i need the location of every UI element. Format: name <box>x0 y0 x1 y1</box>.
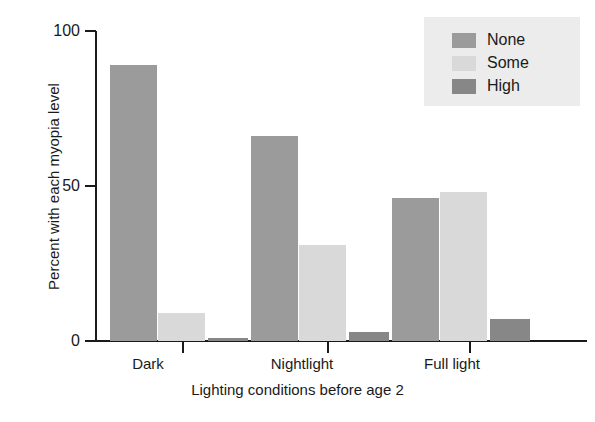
chart-legend: NoneSomeHigh <box>424 17 580 106</box>
y-tick-label: 100 <box>53 22 80 40</box>
legend-swatch-icon <box>452 79 476 94</box>
y-tick-mark <box>85 185 96 187</box>
y-tick-label: 50 <box>62 177 80 195</box>
x-tick-label-dark: Dark <box>132 355 164 372</box>
legend-swatch-icon <box>452 56 476 71</box>
bar-nightlight-high <box>349 332 389 341</box>
legend-label: Some <box>487 55 529 71</box>
bar-full-light-some <box>440 192 487 341</box>
y-tick-label: 0 <box>71 332 80 350</box>
bar-dark-none <box>110 65 157 341</box>
y-axis-title: Percent with each myopia level <box>45 42 62 332</box>
x-tick-mark <box>182 342 184 353</box>
bar-dark-some <box>158 313 205 341</box>
x-tick-mark <box>327 342 329 353</box>
y-tick-mark <box>85 340 96 342</box>
bar-chart: Percent with each myopia level 050100 Da… <box>0 0 595 422</box>
bar-full-light-high <box>490 319 530 341</box>
legend-label: None <box>487 32 525 48</box>
bar-dark-high <box>208 338 248 341</box>
x-tick-label-nightlight: Nightlight <box>271 355 334 372</box>
bar-nightlight-none <box>251 136 298 341</box>
legend-item-high[interactable]: High <box>452 75 520 97</box>
y-tick-mark <box>85 30 96 32</box>
legend-label: High <box>487 78 520 94</box>
legend-item-some[interactable]: Some <box>452 52 529 74</box>
legend-item-none[interactable]: None <box>452 29 525 51</box>
x-axis-title: Lighting conditions before age 2 <box>0 381 595 398</box>
x-tick-mark <box>469 342 471 353</box>
legend-swatch-icon <box>452 33 476 48</box>
bar-full-light-none <box>392 198 439 341</box>
bar-nightlight-some <box>299 245 346 341</box>
x-tick-label-full-light: Full light <box>424 355 480 372</box>
